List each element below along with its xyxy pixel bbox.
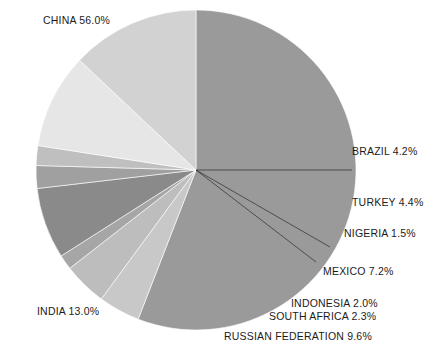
slice-label-turkey: TURKEY 4.4% [352,196,423,208]
slice-label-mexico: MEXICO 7.2% [323,265,393,277]
slice-label-south-africa: SOUTH AFRICA 2.3% [269,310,376,322]
slice-label-nigeria: NIGERIA 1.5% [344,227,416,239]
slice-label-russian-federation: RUSSIAN FEDERATION 9.6% [224,330,372,342]
slice-label-brazil: BRAZIL 4.2% [352,145,417,157]
slice-label-indonesia: INDONESIA 2.0% [291,297,378,309]
pie-chart-figure: CHINA 56.0% BRAZIL 4.2% TURKEY 4.4% NIGE… [0,0,436,364]
figure-caption [4,355,434,364]
slice-label-china: CHINA 56.0% [43,14,110,26]
slice-label-india: INDIA 13.0% [37,305,99,317]
